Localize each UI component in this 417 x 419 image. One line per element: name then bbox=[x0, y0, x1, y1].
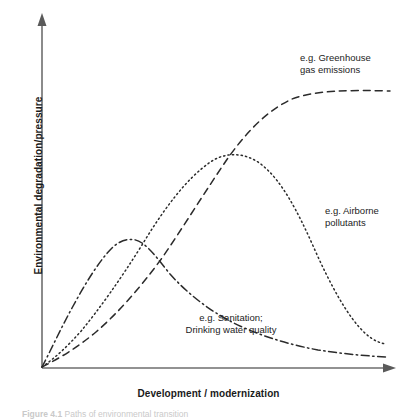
annotation-greenhouse-gas-emissions: e.g. Greenhouse gas emissions bbox=[300, 52, 371, 75]
annotation-sanitation-drinking-water: e.g. Sanitation; Drinking water quality bbox=[172, 312, 290, 335]
curve-sanitation-drinking-water bbox=[42, 239, 386, 367]
y-axis-arrow-icon bbox=[38, 13, 47, 26]
figure-caption-number: Figure 4.1 bbox=[22, 409, 62, 419]
curve-airborne-pollutants bbox=[42, 155, 386, 367]
y-axis-label: Environmental degradation/pressure bbox=[33, 71, 44, 301]
x-axis-arrow-icon bbox=[383, 364, 396, 373]
annotation-airborne-pollutants: e.g. Airborne pollutants bbox=[325, 205, 379, 228]
figure-caption-text: Paths of environmental transition bbox=[65, 409, 189, 419]
x-axis-label: Development / modernization bbox=[0, 388, 417, 399]
figure-container: e.g. Greenhouse gas emissions e.g. Airbo… bbox=[0, 0, 417, 419]
figure-caption: Figure 4.1 Paths of environmental transi… bbox=[22, 409, 402, 419]
